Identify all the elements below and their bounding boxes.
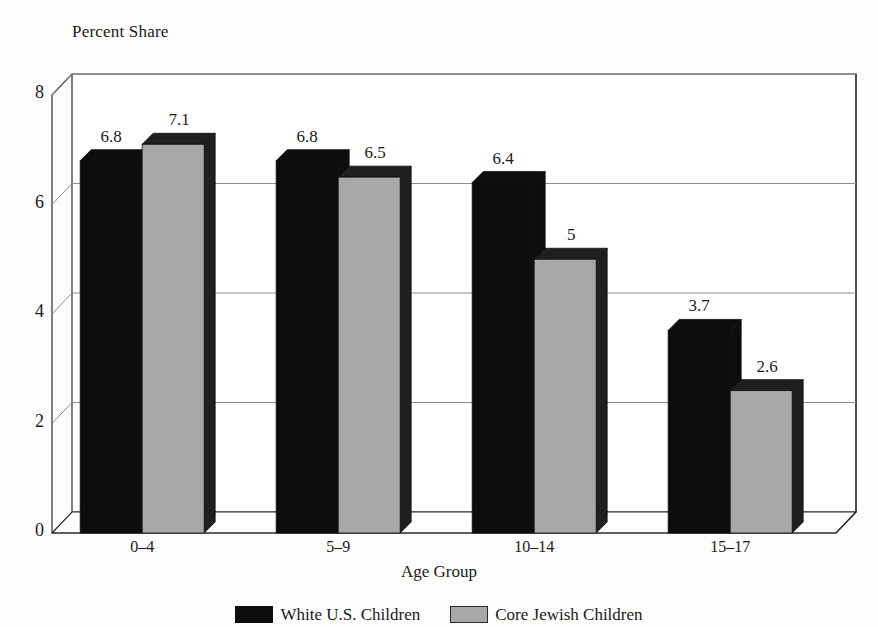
tick-depth-connector [52,74,72,95]
bar-side-face [204,133,215,533]
bar-black [80,161,142,533]
legend-label-0: White U.S. Children [280,607,420,622]
y-tick-label: 4 [18,301,44,322]
bar-value-label: 3.7 [669,296,729,316]
tick-depth-connector [52,184,72,205]
x-tick-label: 15–17 [670,538,790,556]
chart-legend: White U.S. Children Core Jewish Children [0,606,878,623]
bar-value-label: 6.4 [473,149,533,169]
bar-top-face [142,133,215,144]
x-tick-label: 5–9 [278,538,398,556]
legend-item-white-us-children: White U.S. Children [235,606,420,623]
bar-top-face [668,319,741,330]
y-axis-title: Percent Share [72,22,169,42]
bar-side-face [400,166,411,533]
bar-chart: Percent Share Age Group 02468 0–45–910–1… [0,0,878,627]
bar-black [668,330,730,533]
bar-top-face [338,166,411,177]
bar-top-face [730,380,803,391]
bar-value-label: 6.8 [277,127,337,147]
bar-gray [338,177,400,533]
tick-depth-connector [52,403,72,424]
bar-side-face [596,248,607,533]
y-tick-label: 0 [18,520,44,541]
y-tick-label: 6 [18,192,44,213]
bar-value-label: 2.6 [737,357,797,377]
bar-gray [142,144,204,533]
x-tick-label: 10–14 [474,538,594,556]
chart-canvas [0,0,878,627]
bar-value-label: 6.5 [345,143,405,163]
bar-gray [534,259,596,533]
legend-label-1: Core Jewish Children [495,607,642,622]
y-tick-label: 2 [18,411,44,432]
bar-value-label: 5 [541,225,601,245]
bar-top-face [276,150,349,161]
bar-gray [730,391,792,533]
gray-swatch-icon [450,606,488,623]
tick-depth-connector [52,293,72,314]
bar-top-face [534,248,607,259]
legend-item-core-jewish-children: Core Jewish Children [450,606,642,623]
bar-value-label: 7.1 [149,110,209,130]
bar-top-face [472,172,545,183]
bar-value-label: 6.8 [81,127,141,147]
bar-side-face [792,380,803,533]
black-swatch-icon [235,606,273,623]
y-tick-label: 8 [18,82,44,103]
bar-black [276,161,338,533]
bar-black [472,183,534,533]
x-tick-label: 0–4 [82,538,202,556]
x-axis-title: Age Group [0,562,878,582]
